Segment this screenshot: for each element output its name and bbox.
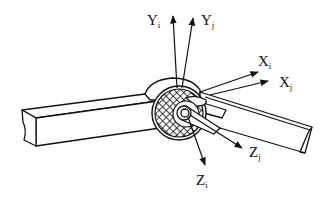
label-yi-letter: Y [147,12,158,28]
label-zi: Zi [196,173,208,190]
label-zj-letter: Z [249,144,258,160]
label-yj-subscript: j [212,20,215,30]
label-yj: Yj [201,13,214,30]
axis-xj-line [210,81,268,95]
diagram-canvas [0,0,329,203]
label-xj-subscript: j [290,82,293,92]
label-zj-subscript: j [258,152,261,162]
axis-xi-line [200,72,258,92]
label-xi: Xi [258,54,271,71]
axis-yi-line [173,16,177,88]
label-yj-letter: Y [201,12,212,28]
label-zi-letter: Z [196,172,205,188]
label-xi-letter: X [258,53,269,69]
label-yi: Yi [147,13,160,30]
link-i [22,93,160,146]
label-xi-subscript: i [269,61,272,71]
label-zi-subscript: i [205,180,208,190]
label-yi-subscript: i [158,20,161,30]
label-zj: Zj [249,145,261,162]
label-xj-letter: X [279,74,290,90]
axis-yj-line [182,18,193,88]
label-xj: Xj [279,75,292,92]
